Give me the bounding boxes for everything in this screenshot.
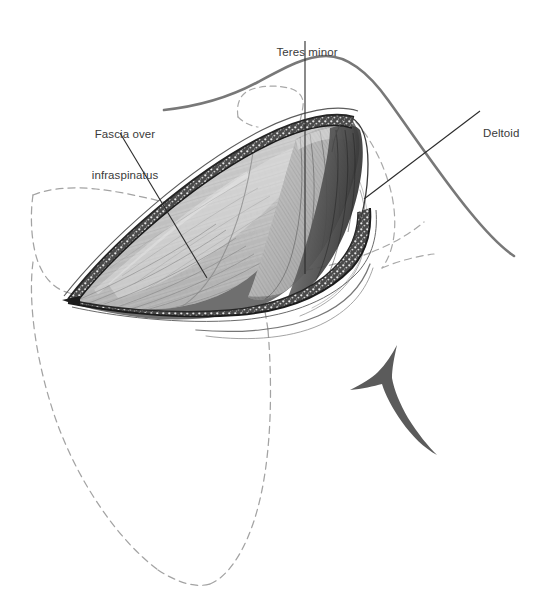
illustration-canvas: Fascia over infraspinatus Teres minor De… — [0, 0, 544, 601]
label-teres-minor-line1: Teres minor — [270, 46, 344, 60]
label-teres-minor: Teres minor — [270, 19, 344, 87]
anatomy-drawing — [0, 0, 544, 601]
label-fascia-over-infraspinatus: Fascia over infraspinatus — [72, 101, 178, 209]
label-deltoid-line1: Deltoid — [483, 127, 543, 141]
label-fascia-line2: infraspinatus — [72, 169, 178, 183]
label-fascia-line1: Fascia over — [72, 128, 178, 142]
label-deltoid: Deltoid — [483, 100, 543, 168]
